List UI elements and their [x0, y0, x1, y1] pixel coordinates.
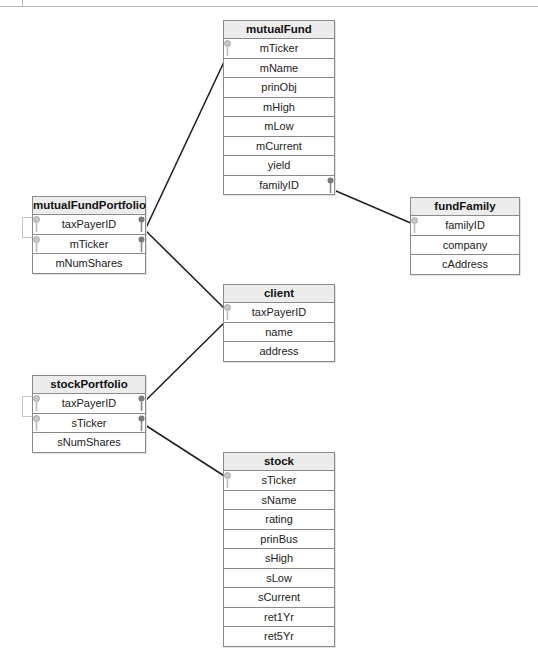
table-header[interactable]: mutualFundPortfolio — [33, 197, 145, 215]
column-name: name — [265, 326, 293, 338]
key-icon — [33, 415, 40, 432]
column-name: sHigh — [265, 552, 293, 564]
column-row[interactable]: mName — [224, 59, 334, 79]
table-mutualfund[interactable]: mutualFund mTicker mName prinObj mHigh m… — [223, 20, 335, 195]
column-name: mCurrent — [256, 140, 302, 152]
column-name: ret5Yr — [264, 630, 294, 642]
link-mfp-mutualfund[interactable] — [145, 47, 231, 230]
column-row[interactable]: familyID — [224, 176, 334, 195]
column-name: taxPayerID — [62, 218, 116, 230]
column-name: prinBus — [260, 533, 297, 545]
column-row[interactable]: sCurrent — [224, 588, 334, 608]
column-row[interactable]: rating — [224, 510, 334, 530]
column-row[interactable]: sName — [224, 491, 334, 511]
foreign-key-icon — [327, 177, 334, 194]
column-row[interactable]: familyID — [411, 216, 519, 236]
column-name: mNumShares — [55, 257, 122, 269]
column-row[interactable]: mHigh — [224, 98, 334, 118]
column-name: yield — [268, 159, 291, 171]
table-client[interactable]: client taxPayerID name address — [223, 284, 335, 362]
column-row[interactable]: taxPayerID — [33, 215, 145, 235]
column-name: familyID — [445, 219, 485, 231]
column-name: ret1Yr — [264, 611, 294, 623]
table-header[interactable]: mutualFund — [224, 21, 334, 39]
table-mutualfundportfolio[interactable]: mutualFundPortfolio taxPayerID mTicker m… — [32, 196, 146, 274]
column-row[interactable]: prinBus — [224, 530, 334, 550]
column-row[interactable]: mLow — [224, 117, 334, 137]
column-name: cAddress — [442, 258, 488, 270]
link-mfp-client[interactable] — [145, 230, 228, 312]
table-header[interactable]: fundFamily — [411, 198, 519, 216]
column-row[interactable]: mTicker — [224, 39, 334, 59]
link-sp-stock[interactable] — [142, 423, 229, 479]
column-name: address — [259, 345, 298, 357]
foreign-key-icon — [138, 415, 145, 432]
column-name: sNumShares — [57, 436, 121, 448]
table-header[interactable]: stock — [224, 453, 334, 471]
key-icon — [33, 236, 40, 253]
link-sp-client[interactable] — [142, 318, 229, 404]
column-name: sLow — [266, 572, 292, 584]
column-row[interactable]: taxPayerID — [224, 303, 334, 323]
column-row[interactable]: taxPayerID — [33, 394, 145, 414]
key-icon — [33, 216, 40, 233]
column-row[interactable]: sLow — [224, 569, 334, 589]
key-icon — [33, 395, 40, 412]
column-name: mTicker — [70, 238, 109, 250]
table-stockportfolio[interactable]: stockPortfolio taxPayerID sTicker sNumSh… — [32, 375, 146, 453]
column-name: sName — [262, 494, 297, 506]
column-name: prinObj — [261, 81, 296, 93]
table-header[interactable]: client — [224, 285, 334, 303]
column-name: rating — [265, 513, 293, 525]
key-icon — [224, 40, 231, 57]
column-row[interactable]: yield — [224, 156, 334, 176]
column-row[interactable]: name — [224, 323, 334, 343]
column-name: company — [443, 239, 488, 251]
link-mutualfund-fundfamily[interactable] — [329, 188, 413, 224]
table-fundfamily[interactable]: fundFamily familyID company cAddress — [410, 197, 520, 275]
key-icon — [411, 217, 418, 234]
column-name: mHigh — [263, 101, 295, 113]
column-row[interactable]: address — [224, 342, 334, 361]
column-name: taxPayerID — [252, 306, 306, 318]
column-row[interactable]: prinObj — [224, 78, 334, 98]
column-name: familyID — [259, 179, 299, 191]
column-name: taxPayerID — [62, 397, 116, 409]
foreign-key-icon — [138, 236, 145, 253]
column-name: sCurrent — [258, 591, 300, 603]
column-name: mName — [260, 62, 299, 74]
column-name: mLow — [264, 120, 293, 132]
foreign-key-icon — [138, 395, 145, 412]
key-icon — [224, 304, 231, 321]
column-row[interactable]: ret1Yr — [224, 608, 334, 628]
column-name: mTicker — [260, 42, 299, 54]
column-row[interactable]: sTicker — [33, 414, 145, 434]
column-row[interactable]: cAddress — [411, 255, 519, 274]
table-header[interactable]: stockPortfolio — [33, 376, 145, 394]
column-row[interactable]: mNumShares — [33, 254, 145, 273]
key-icon — [224, 472, 231, 489]
table-stock[interactable]: stock sTicker sName rating prinBus sHigh… — [223, 452, 335, 647]
column-name: sTicker — [261, 474, 296, 486]
column-row[interactable]: sHigh — [224, 549, 334, 569]
column-row[interactable]: sTicker — [224, 471, 334, 491]
column-row[interactable]: ret5Yr — [224, 627, 334, 646]
foreign-key-icon — [138, 216, 145, 233]
column-row[interactable]: mCurrent — [224, 137, 334, 157]
column-name: sTicker — [71, 417, 106, 429]
column-row[interactable]: mTicker — [33, 235, 145, 255]
column-row[interactable]: company — [411, 236, 519, 256]
column-row[interactable]: sNumShares — [33, 433, 145, 452]
